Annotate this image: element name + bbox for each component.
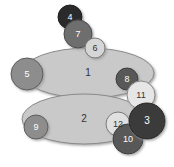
diagram-scene [0,0,174,167]
node-3[interactable] [129,103,165,139]
diagram-canvas: 125947681112103 [0,0,174,167]
shape-group [11,5,165,154]
node-6[interactable] [85,38,105,58]
node-9[interactable] [24,115,48,139]
node-5[interactable] [11,58,43,90]
